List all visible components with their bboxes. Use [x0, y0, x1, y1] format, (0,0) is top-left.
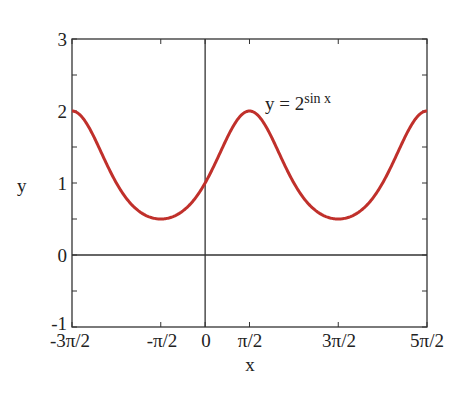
- series-line: [72, 111, 427, 219]
- annotation-base: y = 2: [265, 93, 304, 114]
- xtick-label-neg3pi2: -3π/2: [50, 331, 90, 350]
- xtick-label-pi2: π/2: [238, 331, 262, 350]
- annotation-exponent: sin x: [304, 91, 331, 106]
- xtick-label-0: 0: [201, 331, 211, 350]
- ytick-label-2: 2: [37, 102, 67, 121]
- function-annotation: y = 2sin x: [265, 92, 331, 113]
- plot-frame: [72, 39, 427, 327]
- xtick-label-5pi2: 5π/2: [410, 331, 444, 350]
- y-axis-label: y: [17, 176, 27, 195]
- zero-axis-lines: [72, 39, 427, 327]
- xtick-label-3pi2: 3π/2: [322, 331, 356, 350]
- axis-ticks: [72, 39, 427, 327]
- ytick-label-0: 0: [37, 246, 67, 265]
- xtick-label-negpi2: -π/2: [147, 331, 178, 350]
- x-axis-label: x: [245, 355, 255, 374]
- ytick-label-1: 1: [37, 174, 67, 193]
- ytick-label-3: 3: [37, 30, 67, 49]
